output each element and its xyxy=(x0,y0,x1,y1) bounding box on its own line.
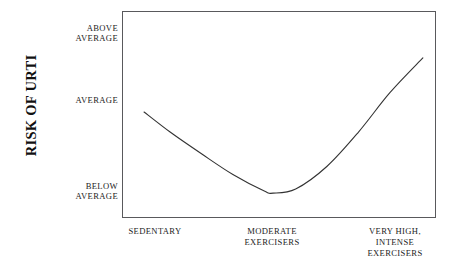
x-tick-line: Sedentary xyxy=(100,226,210,237)
x-tick-line: Exercisers xyxy=(340,248,450,259)
y-axis-title: Risk of URTI xyxy=(23,31,40,181)
y-tick-line: Average xyxy=(8,95,118,105)
chart-figure: Risk of URTI Above Average Average Below… xyxy=(0,0,456,273)
y-tick-label-below-average: Below Average xyxy=(8,181,118,202)
x-tick-line: Intense xyxy=(340,237,450,248)
x-tick-label-moderate-exercisers: Moderate Exercisers xyxy=(217,226,327,248)
plot-area xyxy=(122,11,436,218)
x-tick-line: Exercisers xyxy=(217,237,327,248)
y-tick-line: Above xyxy=(8,23,118,33)
urti-risk-curve xyxy=(123,12,437,219)
x-tick-label-very-high-intense-exercisers: Very High, Intense Exercisers xyxy=(340,226,450,259)
y-tick-line: Below xyxy=(8,181,118,191)
curve-path xyxy=(144,58,423,193)
y-tick-label-average: Average xyxy=(8,95,118,105)
y-tick-line: Average xyxy=(8,33,118,43)
y-tick-label-above-average: Above Average xyxy=(8,23,118,44)
y-tick-line: Average xyxy=(8,191,118,201)
x-tick-line: Very High, xyxy=(340,226,450,237)
x-tick-line: Moderate xyxy=(217,226,327,237)
x-tick-label-sedentary: Sedentary xyxy=(100,226,210,237)
